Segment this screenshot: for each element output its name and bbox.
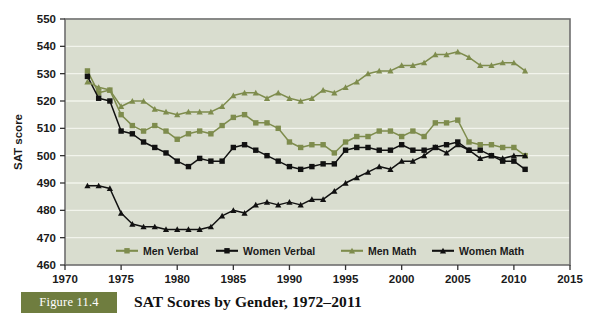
legend-item-label: Men Verbal bbox=[143, 245, 199, 257]
data-point-marker bbox=[466, 139, 471, 144]
y-axis-tick-label: 550 bbox=[37, 13, 56, 25]
data-point-marker bbox=[354, 134, 359, 139]
data-point-marker bbox=[124, 248, 129, 253]
data-point-marker bbox=[410, 128, 415, 133]
data-point-marker bbox=[242, 112, 247, 117]
data-point-marker bbox=[421, 148, 426, 153]
data-point-marker bbox=[365, 145, 370, 150]
data-point-marker bbox=[264, 153, 269, 158]
data-point-marker bbox=[309, 142, 314, 147]
data-point-marker bbox=[130, 123, 135, 128]
data-point-marker bbox=[141, 139, 146, 144]
y-axis-tick-label: 480 bbox=[37, 204, 56, 216]
data-point-marker bbox=[332, 150, 337, 155]
x-axis-tick-label: 1980 bbox=[164, 273, 190, 284]
data-point-marker bbox=[219, 123, 224, 128]
data-point-marker bbox=[276, 126, 281, 131]
data-point-marker bbox=[388, 148, 393, 153]
y-axis-tick-label: 490 bbox=[37, 177, 56, 189]
data-point-marker bbox=[85, 68, 90, 73]
y-axis-tick-label: 520 bbox=[37, 95, 56, 107]
y-axis-title: SAT score bbox=[12, 114, 24, 170]
data-point-marker bbox=[343, 139, 348, 144]
data-point-marker bbox=[197, 156, 202, 161]
x-axis-tick-label: 2015 bbox=[557, 273, 583, 284]
data-point-marker bbox=[410, 148, 415, 153]
x-axis-tick-label: 1975 bbox=[108, 273, 134, 284]
data-point-marker bbox=[320, 161, 325, 166]
data-point-marker bbox=[242, 142, 247, 147]
data-point-marker bbox=[444, 120, 449, 125]
data-point-marker bbox=[455, 117, 460, 122]
y-axis-tick-label: 530 bbox=[37, 68, 56, 80]
data-point-marker bbox=[354, 145, 359, 150]
data-point-marker bbox=[107, 98, 112, 103]
data-point-marker bbox=[186, 131, 191, 136]
data-point-marker bbox=[264, 120, 269, 125]
data-point-marker bbox=[175, 137, 180, 142]
data-point-marker bbox=[478, 148, 483, 153]
data-point-marker bbox=[163, 128, 168, 133]
y-axis-tick-label: 470 bbox=[37, 232, 56, 244]
data-point-marker bbox=[141, 128, 146, 133]
y-axis-tick-label: 460 bbox=[37, 259, 56, 271]
legend-item-label: Men Math bbox=[368, 245, 416, 257]
y-axis-tick-label: 510 bbox=[37, 122, 56, 134]
data-point-marker bbox=[253, 148, 258, 153]
data-point-marker bbox=[399, 142, 404, 147]
data-point-marker bbox=[332, 161, 337, 166]
x-axis-tick-label: 2000 bbox=[389, 273, 415, 284]
data-point-marker bbox=[298, 145, 303, 150]
x-axis-tick-label: 1985 bbox=[221, 273, 247, 284]
data-point-marker bbox=[130, 131, 135, 136]
data-point-marker bbox=[163, 150, 168, 155]
data-point-marker bbox=[500, 145, 505, 150]
x-axis-tick-label: 1990 bbox=[277, 273, 303, 284]
data-point-marker bbox=[444, 142, 449, 147]
data-point-marker bbox=[309, 164, 314, 169]
data-point-marker bbox=[219, 158, 224, 163]
figure-caption-title: SAT Scores by Gender, 1972–2011 bbox=[134, 293, 362, 311]
legend-item-label: Women Math bbox=[459, 245, 524, 257]
data-point-marker bbox=[118, 112, 123, 117]
data-point-marker bbox=[287, 164, 292, 169]
data-point-marker bbox=[175, 158, 180, 163]
figure-container: 4604704804905005105205305405501970197519… bbox=[0, 0, 598, 318]
x-axis-tick-label: 1970 bbox=[52, 273, 78, 284]
data-point-marker bbox=[287, 139, 292, 144]
data-point-marker bbox=[276, 158, 281, 163]
data-point-marker bbox=[421, 134, 426, 139]
data-point-marker bbox=[231, 115, 236, 120]
data-point-marker bbox=[85, 74, 90, 79]
data-point-marker bbox=[298, 167, 303, 172]
data-point-marker bbox=[208, 131, 213, 136]
data-point-marker bbox=[433, 120, 438, 125]
data-point-marker bbox=[208, 158, 213, 163]
data-point-marker bbox=[96, 96, 101, 101]
data-point-marker bbox=[511, 145, 516, 150]
chart-plot-region: 4604704804905005105205305405501970197519… bbox=[0, 0, 598, 284]
data-point-marker bbox=[489, 142, 494, 147]
x-axis-tick-label: 2010 bbox=[501, 273, 527, 284]
legend-item-label: Women Verbal bbox=[243, 245, 315, 257]
data-point-marker bbox=[522, 167, 527, 172]
x-axis-tick-label: 2005 bbox=[445, 273, 471, 284]
data-point-marker bbox=[152, 123, 157, 128]
data-point-marker bbox=[118, 128, 123, 133]
data-point-marker bbox=[197, 128, 202, 133]
data-point-marker bbox=[343, 148, 348, 153]
data-point-marker bbox=[399, 134, 404, 139]
x-axis-tick-label: 1995 bbox=[333, 273, 359, 284]
data-point-marker bbox=[231, 145, 236, 150]
data-point-marker bbox=[365, 134, 370, 139]
data-point-marker bbox=[320, 142, 325, 147]
figure-caption-row: Figure 11.4 SAT Scores by Gender, 1972–2… bbox=[0, 286, 598, 318]
data-point-marker bbox=[152, 145, 157, 150]
plot-background bbox=[65, 19, 570, 265]
data-point-marker bbox=[478, 142, 483, 147]
data-point-marker bbox=[511, 158, 516, 163]
data-point-marker bbox=[377, 148, 382, 153]
figure-number-badge: Figure 11.4 bbox=[21, 292, 117, 313]
data-point-marker bbox=[224, 248, 229, 253]
sat-scores-line-chart: 4604704804905005105205305405501970197519… bbox=[0, 0, 598, 284]
